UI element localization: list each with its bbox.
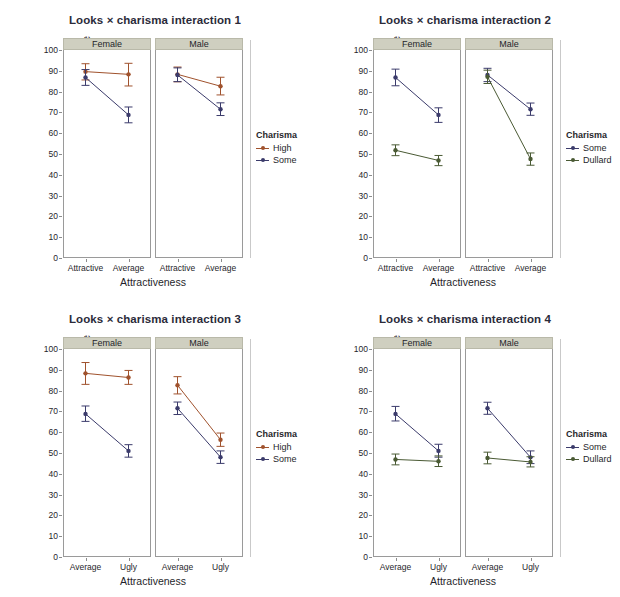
series-plot [374, 50, 460, 258]
chart-panel-3: Looks × charisma interaction 3Mean Ratin… [0, 299, 310, 597]
x-tick-label: Average [515, 263, 547, 273]
legend-key-swatch [256, 144, 269, 153]
x-tick-label: Ugly [522, 562, 539, 572]
legend-item[interactable]: Some [566, 442, 612, 452]
legend-item[interactable]: Dullard [566, 155, 612, 165]
legend: CharismaHighSome [256, 130, 297, 167]
legend: CharismaSomeDullard [566, 429, 612, 466]
y-tick-label: 50 [346, 448, 368, 458]
y-tick-mark [59, 112, 62, 113]
x-tick-label: Attractive [68, 263, 103, 273]
y-tick-label: 0 [36, 253, 58, 263]
y-tick-label: 60 [346, 128, 368, 138]
y-tick-label: 0 [346, 253, 368, 263]
legend-item[interactable]: High [256, 442, 297, 452]
series-plot [64, 50, 150, 258]
x-tick-mark [86, 558, 87, 561]
y-tick-mark [369, 453, 372, 454]
data-point-marker [83, 412, 87, 416]
data-point-marker [528, 460, 532, 464]
series-plot [156, 349, 242, 557]
x-axis-label: Attractiveness [63, 575, 243, 587]
plot-area: Mean Rating of Date010203040506070809010… [373, 337, 553, 557]
legend-item-label: Some [583, 442, 607, 452]
y-tick-mark [369, 536, 372, 537]
y-tick-label: 90 [346, 365, 368, 375]
y-tick-mark [59, 391, 62, 392]
series-line [488, 75, 531, 109]
data-point-marker [218, 84, 222, 88]
data-point-group [217, 103, 225, 116]
data-point-marker [126, 113, 130, 117]
legend-item[interactable]: High [256, 143, 297, 153]
series-line [86, 72, 129, 75]
data-point-group [125, 445, 133, 457]
legend: CharismaSomeDullard [566, 130, 612, 167]
y-tick-mark [369, 71, 372, 72]
data-point-marker [393, 457, 397, 461]
legend-title: Charisma [566, 429, 612, 439]
data-point-marker [218, 455, 222, 459]
x-axis-label: Attractiveness [373, 575, 553, 587]
x-tick-mark [396, 558, 397, 561]
facet-strip-label: Female [373, 38, 461, 50]
y-tick-label: 20 [36, 510, 58, 520]
data-point-marker [126, 72, 130, 76]
x-tick-label: Attractive [160, 263, 195, 273]
legend-item-label: Some [583, 143, 607, 153]
facet-pane [373, 50, 461, 258]
data-point-marker [436, 459, 440, 463]
data-point-marker [218, 437, 222, 441]
data-point-group [174, 377, 182, 394]
series-plot [374, 349, 460, 557]
data-point-group [82, 406, 90, 421]
legend-item-label: High [273, 143, 292, 153]
y-tick-mark [59, 50, 62, 51]
legend-item-label: Dullard [583, 155, 612, 165]
chart-title: Looks × charisma interaction 4 [310, 313, 620, 325]
data-point-marker [126, 449, 130, 453]
y-tick-label: 10 [36, 232, 58, 242]
x-tick-mark [86, 259, 87, 262]
x-tick-label: Average [205, 263, 237, 273]
y-tick-label: 40 [346, 469, 368, 479]
facet-strip-label: Male [155, 38, 243, 50]
y-tick-label: 40 [36, 469, 58, 479]
facet-row: FemaleMale [373, 38, 553, 258]
legend-item-label: High [273, 442, 292, 452]
legend-item[interactable]: Dullard [566, 454, 612, 464]
x-axis-label: Attractiveness [63, 276, 243, 288]
y-tick-mark [369, 370, 372, 371]
y-tick-mark [369, 237, 372, 238]
y-tick-mark [369, 349, 372, 350]
legend-separator [250, 339, 251, 557]
data-point-marker [485, 75, 489, 79]
y-tick-mark [369, 391, 372, 392]
series-line [86, 414, 129, 451]
y-tick-label: 10 [346, 531, 368, 541]
x-tick-mark [488, 259, 489, 262]
legend-separator [560, 40, 561, 258]
y-tick-label: 50 [346, 149, 368, 159]
facet-male: Male [155, 38, 243, 258]
facet-pane [155, 50, 243, 258]
legend-item[interactable]: Some [566, 143, 612, 153]
y-tick-label: 60 [36, 427, 58, 437]
y-tick-label: 60 [36, 128, 58, 138]
series-line [488, 408, 531, 457]
legend-item[interactable]: Some [256, 454, 297, 464]
data-point-group [527, 153, 535, 165]
y-tick-mark [369, 258, 372, 259]
y-tick-mark [59, 557, 62, 558]
data-point-marker [393, 412, 397, 416]
legend-key-swatch [566, 455, 579, 464]
data-point-group [392, 69, 400, 86]
y-tick-mark [369, 92, 372, 93]
y-tick-mark [59, 495, 62, 496]
y-tick-label: 100 [346, 344, 368, 354]
x-tick-label: Average [380, 562, 412, 572]
x-tick-label: Ugly [430, 562, 447, 572]
y-tick-label: 30 [36, 191, 58, 201]
data-point-group [174, 402, 182, 414]
legend-item[interactable]: Some [256, 155, 297, 165]
